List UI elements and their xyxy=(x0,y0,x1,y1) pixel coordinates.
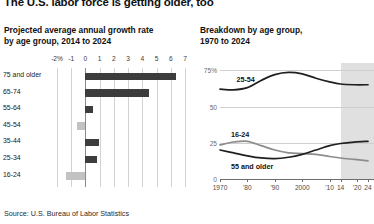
bar-gridline xyxy=(128,68,129,187)
line-series-path xyxy=(220,141,368,158)
bar-category-label: 55-64 xyxy=(3,104,21,111)
left-chart-title-line2: by age group, 2014 to 2024 xyxy=(4,36,153,47)
bar-x-tick-label: 6 xyxy=(169,55,173,62)
right-chart-title: Breakdown by age group, 1970 to 2024 xyxy=(200,25,302,46)
bar-segment xyxy=(85,73,176,81)
bar-gridline xyxy=(100,68,101,187)
bar-x-tick-label: 1 xyxy=(98,55,102,62)
bar-category-label: 65-74 xyxy=(3,88,21,95)
bar-segment xyxy=(85,139,99,147)
page-headline: The U.S. labor force is getting older, t… xyxy=(4,0,213,8)
bar-x-tick-label: 7 xyxy=(183,55,187,62)
bar-category-label: 25-34 xyxy=(3,154,21,161)
bar-segment xyxy=(77,122,86,130)
bar-gridline xyxy=(114,68,115,187)
series-label-55-and-older: 55 and older xyxy=(231,162,273,171)
bar-gridline xyxy=(157,68,158,187)
bar-category-label: 16-24 xyxy=(3,171,21,178)
bar-gridline xyxy=(57,68,58,187)
left-chart-title-line1: Projected average annual growth rate xyxy=(4,25,153,36)
bar-gridline xyxy=(142,68,143,187)
bar-segment xyxy=(85,89,149,97)
bar-segment xyxy=(85,156,96,164)
bar-x-tick-label: 5 xyxy=(155,55,159,62)
bar-gridline xyxy=(185,68,186,187)
bar-x-tick-label: -1 xyxy=(68,55,74,62)
bar-chart: -2%-10123456775 and older65-7455-6445-54… xyxy=(0,55,190,195)
bar-zero-line xyxy=(85,68,86,187)
line-series-path xyxy=(220,141,368,161)
bar-category-label: 75 and older xyxy=(3,71,41,78)
bar-segment xyxy=(66,172,86,180)
bar-category-label: 35-44 xyxy=(3,137,21,144)
series-label-25-54: 25-54 xyxy=(236,75,254,84)
left-chart-title: Projected average annual growth rate by … xyxy=(4,25,153,46)
right-chart-title-line2: 1970 to 2024 xyxy=(200,36,302,47)
series-label-16-24: 16-24 xyxy=(231,130,249,139)
bar-x-tick-label: 3 xyxy=(126,55,130,62)
line-series-group xyxy=(196,55,372,200)
bar-x-tick-label: -2% xyxy=(51,55,63,62)
bar-x-tick-label: 0 xyxy=(84,55,88,62)
right-chart-title-line1: Breakdown by age group, xyxy=(200,25,302,36)
bar-x-tick-label: 4 xyxy=(140,55,144,62)
bar-gridline xyxy=(171,68,172,187)
bar-gridline xyxy=(71,68,72,187)
source-note: Source: U.S. Bureau of Labor Statistics xyxy=(4,209,129,218)
bar-category-label: 45-54 xyxy=(3,121,21,128)
bar-x-tick-label: 2 xyxy=(112,55,116,62)
bar-segment xyxy=(85,106,93,114)
line-chart: 0255075%1970'80'902000'1014'202425-5416-… xyxy=(196,55,372,200)
